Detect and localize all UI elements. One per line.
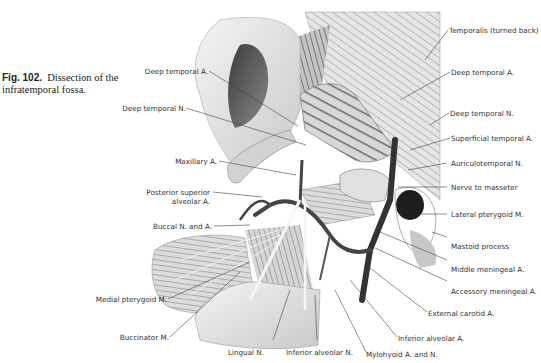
label-lingual-n: Lingual N. (228, 348, 264, 357)
label-maxillary-a: Maxillary A. (175, 157, 217, 166)
figure-caption: Fig. 102. Dissection of the infratempora… (2, 72, 152, 96)
label-temporalis: Temporalis (turned back) (449, 26, 539, 35)
label-buccal-n-and-a: Buccal N. and A. (153, 222, 212, 231)
label-accessory-meningeal-a: Accessory meningeal A. (451, 287, 537, 296)
label-mastoid-process: Mastoid process (451, 242, 509, 251)
label-deep-temporal-n-right: Deep temporal N. (450, 109, 514, 118)
figure-number: Fig. 102. (2, 72, 42, 83)
label-auriculotemporal-n: Auriculotemporal N. (451, 159, 523, 168)
label-mylohyoid-a-and-n: Mylohyoid A. and N. (366, 350, 438, 359)
label-inferior-alveolar-a: Inferior alveolar A. (398, 334, 464, 343)
label-posterior-superior-alveolar-a-line2: alveolar A. (172, 197, 210, 206)
label-medial-pterygoid-m: Medial pterygoid M. (96, 295, 167, 304)
label-deep-temporal-a-right: Deep temporal A. (451, 68, 514, 77)
label-middle-meningeal-a: Middle meningeal A. (451, 265, 524, 274)
label-inferior-alveolar-n: Inferior alveolar N. (286, 348, 353, 357)
label-buccinator-m: Buccinator M. (120, 333, 169, 342)
label-deep-temporal-n-left: Deep temporal N. (122, 104, 186, 113)
label-lateral-pterygoid-m: Lateral pterygoid M. (451, 210, 524, 219)
label-superficial-temporal-a: Superficial temporal A. (451, 134, 533, 143)
label-nerve-to-masseter: Nerve to masseter (451, 183, 518, 192)
label-external-carotid-a: External carotid A. (428, 309, 494, 318)
label-posterior-superior-alveolar-a-line1: Posterior superior (146, 188, 210, 197)
label-deep-temporal-a-left: Deep temporal A. (145, 67, 208, 76)
